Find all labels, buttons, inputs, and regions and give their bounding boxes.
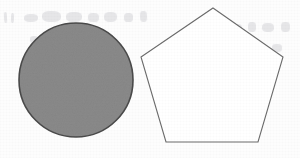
geometry-figures (0, 0, 300, 158)
gray-filled-circle (19, 23, 133, 137)
pentagon-outline (141, 8, 283, 142)
scanned-page (0, 0, 300, 158)
